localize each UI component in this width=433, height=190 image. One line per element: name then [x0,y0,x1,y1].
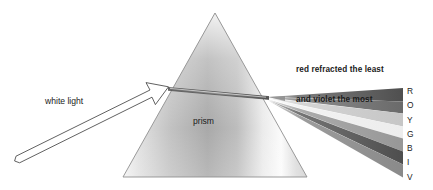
legend-letter-r: R [407,87,413,95]
legend-letter-o: O [407,101,414,109]
legend-letter-y: Y [407,116,413,124]
dispersion-caption-line-1: red refracted the least [296,65,384,75]
dispersion-caption: red refracted the least and violet the m… [296,44,384,126]
legend-letter-g: G [407,130,414,138]
legend-letter-b: B [407,144,413,152]
legend-letter-v: V [407,173,413,181]
spectrum-legend: R O Y G B I V [407,87,423,181]
dispersion-caption-line-2: and violet the most [296,95,384,105]
prism-label: prism [193,116,214,127]
white-light-label: white light [45,96,83,107]
legend-letter-i: I [407,158,409,166]
prism-dispersion-diagram: red refracted the least and violet the m… [0,0,433,190]
